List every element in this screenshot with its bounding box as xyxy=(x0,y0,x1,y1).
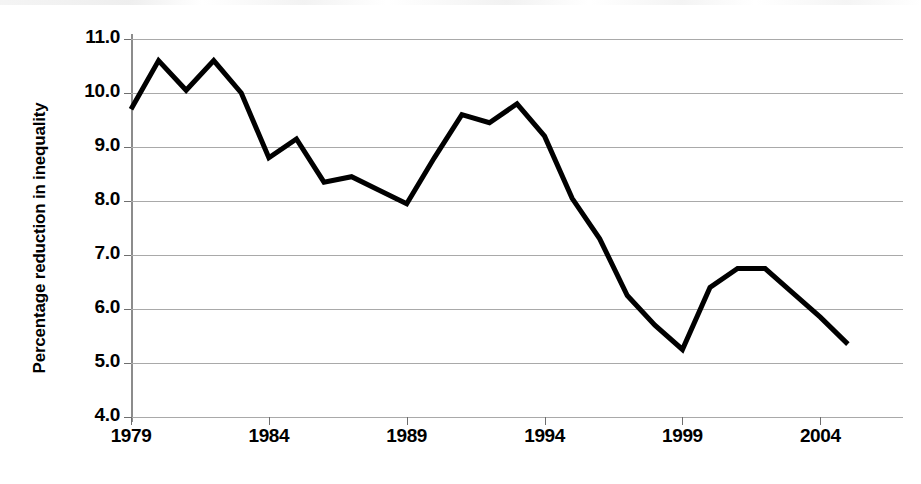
x-tick-mark xyxy=(545,417,546,425)
y-tick-mark xyxy=(124,39,131,40)
y-tick-label: 4.0 xyxy=(0,404,120,426)
y-tick-label: 5.0 xyxy=(0,350,120,372)
cropped-caption-remnant xyxy=(0,0,921,5)
x-tick-label: 1979 xyxy=(71,425,191,447)
y-tick-mark xyxy=(124,201,131,202)
x-tick-label: 1994 xyxy=(485,425,605,447)
gridline xyxy=(131,309,903,310)
gridline xyxy=(131,363,903,364)
y-tick-mark xyxy=(124,255,131,256)
x-tick-mark xyxy=(269,417,270,425)
y-tick-label: 6.0 xyxy=(0,296,120,318)
gridline xyxy=(131,93,903,94)
y-tick-mark xyxy=(124,417,131,418)
y-tick-label: 11.0 xyxy=(0,26,120,48)
plot-area xyxy=(131,39,903,417)
y-tick-mark xyxy=(124,309,131,310)
y-tick-mark xyxy=(124,147,131,148)
x-tick-label: 1984 xyxy=(209,425,329,447)
chart-figure: Percentage reduction in inequality 11.01… xyxy=(0,0,921,484)
x-tick-mark xyxy=(820,417,821,425)
x-tick-mark xyxy=(682,417,683,425)
y-tick-label: 9.0 xyxy=(0,134,120,156)
gridline xyxy=(131,39,903,40)
x-tick-label: 1989 xyxy=(347,425,467,447)
y-tick-label: 10.0 xyxy=(0,80,120,102)
gridline xyxy=(131,201,903,202)
gridline xyxy=(131,255,903,256)
x-tick-label: 2004 xyxy=(760,425,880,447)
y-tick-mark xyxy=(124,93,131,94)
gridline xyxy=(131,417,903,418)
x-tick-mark xyxy=(407,417,408,425)
y-tick-label: 8.0 xyxy=(0,188,120,210)
x-tick-label: 1999 xyxy=(622,425,742,447)
gridline xyxy=(131,147,903,148)
x-tick-mark xyxy=(131,417,132,425)
y-tick-mark xyxy=(124,363,131,364)
y-tick-label: 7.0 xyxy=(0,242,120,264)
